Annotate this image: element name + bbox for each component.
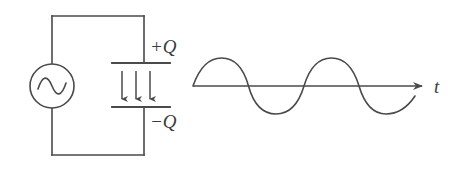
time-axis-label: t xyxy=(434,76,440,97)
figure-canvas: +Q −Q t xyxy=(0,0,465,170)
ac-source-icon xyxy=(30,64,74,108)
negative-charge-label: −Q xyxy=(150,111,177,132)
electric-field-arrows xyxy=(122,71,150,99)
ac-capacitor-circuit: +Q −Q xyxy=(30,16,177,155)
capacitor-icon xyxy=(112,63,170,107)
sine-waveform-plot: t xyxy=(193,58,440,114)
physics-figure: +Q −Q t xyxy=(0,0,465,170)
positive-charge-label: +Q xyxy=(150,36,177,57)
